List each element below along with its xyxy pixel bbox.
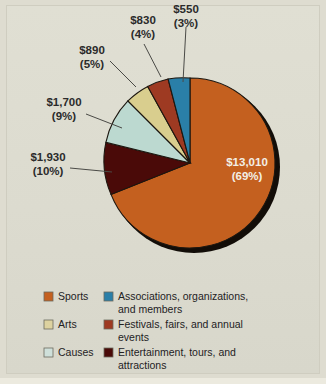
slice-label-festivals-percent: (4%) — [131, 28, 155, 40]
slice-label-festivals-value: $830 — [130, 14, 156, 26]
slice-label-arts-percent: (5%) — [80, 58, 104, 70]
legend-swatch-sports[interactable] — [44, 292, 53, 301]
legend-label-arts: Arts — [58, 318, 77, 330]
legend-label-causes: Causes — [58, 346, 94, 358]
legend-label-entertainment: Entertainment, tours, and — [118, 346, 236, 358]
slice-label-entertainment-value: $1,930 — [30, 151, 65, 163]
leader-line-festivals — [144, 44, 161, 77]
legend-label-festivals-line2: events — [118, 331, 149, 343]
pie-chart-svg: $13,010 (69%) $1,930 (10%) $1,700 (9%) $… — [0, 0, 326, 384]
leader-line-associations — [183, 27, 186, 82]
slice-label-causes-percent: (9%) — [52, 110, 76, 122]
slice-label-sports-percent: (69%) — [232, 170, 263, 182]
pie-chart-figure: $13,010 (69%) $1,930 (10%) $1,700 (9%) $… — [0, 0, 326, 384]
slice-label-associations-value: $550 — [173, 3, 199, 15]
slice-label-associations-percent: (3%) — [174, 17, 198, 29]
legend-label-entertainment-line2: attractions — [118, 359, 166, 371]
legend-swatch-arts[interactable] — [44, 320, 53, 329]
legend-swatch-entertainment[interactable] — [104, 348, 113, 357]
legend-swatch-associations[interactable] — [104, 292, 113, 301]
legend-swatch-causes[interactable] — [44, 348, 53, 357]
legend-label-festivals: Festivals, fairs, and annual — [118, 318, 243, 330]
leader-line-arts — [110, 61, 136, 87]
legend-swatch-festivals[interactable] — [104, 320, 113, 329]
slice-label-entertainment-percent: (10%) — [33, 165, 64, 177]
slice-label-sports-value: $13,010 — [226, 156, 268, 168]
legend-label-associations: Associations, organizations, — [118, 290, 248, 302]
slice-label-causes-value: $1,700 — [46, 96, 81, 108]
legend: Sports Associations, organizations, and … — [44, 290, 248, 371]
slice-label-arts-value: $890 — [79, 44, 105, 56]
legend-label-associations-line2: and members — [118, 303, 182, 315]
legend-label-sports: Sports — [58, 290, 88, 302]
